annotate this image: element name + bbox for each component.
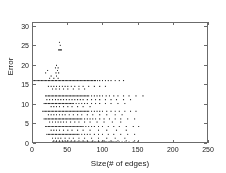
y-tick-label: 30 xyxy=(10,22,29,29)
y-tick-mark xyxy=(33,104,36,105)
y-tick-mark xyxy=(33,84,36,85)
x-tick-label: 0 xyxy=(30,146,34,153)
y-tick-mark xyxy=(33,143,36,144)
x-tick-mark-top xyxy=(138,22,139,25)
x-tick-label: 250 xyxy=(202,146,214,153)
y-axis-label: Error xyxy=(6,37,15,97)
x-tick-mark-top xyxy=(102,22,103,25)
scatter-plot-figure: 050100150200250051015202530 Size(# of ed… xyxy=(0,0,226,173)
x-tick-label: 100 xyxy=(97,146,109,153)
x-axis-label: Size(# of edges) xyxy=(32,159,208,168)
y-tick-mark-right xyxy=(204,104,207,105)
x-tick-label: 50 xyxy=(63,146,71,153)
y-tick-label: 5 xyxy=(10,120,29,127)
y-tick-mark-right xyxy=(204,123,207,124)
y-tick-mark-right xyxy=(204,143,207,144)
x-tick-label: 150 xyxy=(132,146,144,153)
y-tick-label: 0 xyxy=(10,140,29,147)
y-tick-mark-right xyxy=(204,84,207,85)
x-tick-mark xyxy=(173,140,174,143)
x-tick-mark-top xyxy=(173,22,174,25)
x-tick-mark xyxy=(208,140,209,143)
x-tick-mark-top xyxy=(208,22,209,25)
plot-area xyxy=(32,22,208,143)
y-tick-mark-right xyxy=(204,65,207,66)
x-tick-mark xyxy=(138,140,139,143)
y-tick-label: 10 xyxy=(10,100,29,107)
y-tick-mark xyxy=(33,123,36,124)
y-tick-mark-right xyxy=(204,26,207,27)
x-tick-mark xyxy=(102,140,103,143)
y-tick-mark-right xyxy=(204,45,207,46)
y-tick-mark xyxy=(33,45,36,46)
y-tick-mark xyxy=(33,65,36,66)
x-tick-label: 200 xyxy=(167,146,179,153)
x-tick-mark-top xyxy=(32,22,33,25)
x-tick-mark-top xyxy=(67,22,68,25)
y-tick-mark xyxy=(33,26,36,27)
scatter-points-layer xyxy=(33,23,207,142)
x-tick-mark xyxy=(67,140,68,143)
